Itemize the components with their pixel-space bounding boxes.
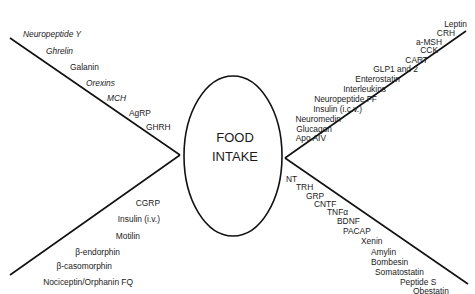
- center-line-1: FOOD: [185, 128, 285, 147]
- upper-right-item: GLP1 and 2: [373, 65, 418, 73]
- upper-left-item: Galanin: [70, 63, 99, 71]
- lower-right-item: BDNF: [337, 217, 360, 225]
- lower-left-item: Insulin (i.v.): [118, 215, 160, 223]
- lower-left-item: β-casomorphin: [56, 262, 112, 270]
- lower-left-item: Nociceptin/Orphanin FQ: [43, 278, 133, 286]
- lower-right-item: Obestatin: [413, 287, 449, 294]
- upper-left-item: GHRH: [146, 123, 171, 131]
- upper-left-item: Ghrelin: [46, 47, 73, 55]
- center-line-2: INTAKE: [185, 147, 285, 166]
- lower-right-item: Xenin: [361, 237, 382, 245]
- food-intake-label: FOOD INTAKE: [185, 128, 285, 166]
- upper-right-item: Enterostatin: [355, 75, 400, 83]
- upper-right-item: Insulin (i.c.v.): [313, 105, 362, 113]
- lower-right-item: PACAP: [343, 227, 371, 235]
- upper-left-item: MCH: [107, 94, 126, 102]
- upper-left-item: AgRP: [129, 109, 151, 117]
- lower-left-item: CGRP: [136, 199, 160, 207]
- upper-right-item: Neuromedin: [295, 115, 341, 123]
- lower-left-item: β-endorphin: [75, 248, 120, 256]
- upper-right-item: Apo AIV: [296, 134, 326, 142]
- upper-right-item: CCK: [420, 46, 438, 54]
- lower-right-item: Amylin: [371, 248, 396, 256]
- upper-left-line: [10, 38, 180, 155]
- lower-left-item: Motilin: [116, 232, 140, 240]
- upper-right-item: Interleukins: [343, 85, 386, 93]
- lower-right-item: Bombesin: [371, 258, 408, 266]
- upper-right-item: Neuropeptide FF: [314, 95, 377, 103]
- upper-left-item: Orexins: [86, 79, 115, 87]
- upper-left-item: Neuropeptide Y: [23, 30, 81, 38]
- lower-right-item: Somatostatin: [375, 268, 424, 276]
